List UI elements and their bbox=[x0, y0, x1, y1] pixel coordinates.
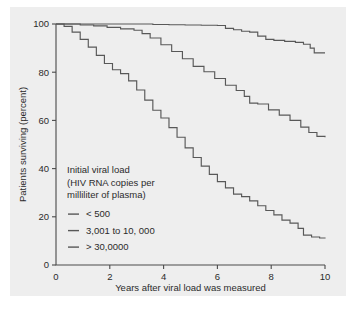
x-tick-label: 8 bbox=[269, 271, 274, 282]
y-tick-label: 20 bbox=[38, 211, 49, 222]
y-tick-label: 40 bbox=[38, 163, 49, 174]
y-axis-title: Patients surviving (percent) bbox=[17, 87, 28, 202]
curve-series bbox=[56, 24, 325, 238]
x-tick-label: 4 bbox=[161, 271, 166, 282]
legend-title-line: Initial viral load bbox=[67, 164, 130, 175]
y-tick-label: 0 bbox=[44, 259, 49, 270]
y-tick-label: 100 bbox=[33, 18, 49, 29]
axes: 0204060801000246810Years after viral loa… bbox=[17, 18, 330, 293]
chart-legend: Initial viral load(HIV RNA copies permil… bbox=[67, 164, 155, 252]
y-tick-label: 80 bbox=[38, 67, 49, 78]
legend-entry-label: 3,001 to 10, 000 bbox=[86, 225, 155, 236]
survival-curve-3 bbox=[56, 24, 325, 238]
x-tick-label: 0 bbox=[53, 271, 58, 282]
x-axis-title: Years after viral load was measured bbox=[115, 282, 266, 293]
x-tick-label: 6 bbox=[215, 271, 220, 282]
figure-panel: 0204060801000246810Years after viral loa… bbox=[10, 7, 346, 296]
x-tick-label: 2 bbox=[107, 271, 112, 282]
y-tick-label: 60 bbox=[38, 115, 49, 126]
survival-curve-chart: 0204060801000246810Years after viral loa… bbox=[10, 7, 346, 296]
legend-entry-label: > 30,0000 bbox=[86, 241, 129, 252]
x-tick-label: 10 bbox=[320, 271, 331, 282]
legend-title-line: milliliter of plasma) bbox=[67, 189, 146, 200]
legend-title-line: (HIV RNA copies per bbox=[67, 177, 155, 188]
legend-entry-label: < 500 bbox=[86, 208, 110, 219]
